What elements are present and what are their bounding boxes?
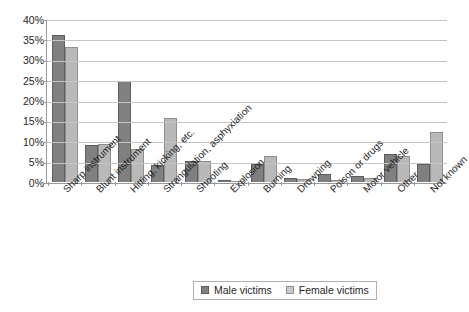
legend-swatch-female-icon [286, 286, 294, 294]
gridline [47, 20, 447, 21]
y-tick-label: 25% [6, 76, 44, 87]
y-tick-label: 40% [6, 15, 44, 26]
y-tick-mark [43, 142, 47, 143]
gridline [47, 40, 447, 41]
y-tick-label: 15% [6, 116, 44, 127]
x-axis: Sharp instrumentBlunt instrumentHitting,… [46, 185, 447, 275]
y-tick-label: 20% [6, 96, 44, 107]
gridline [47, 122, 447, 123]
y-tick-mark [43, 61, 47, 62]
legend-label-male: Male victims [214, 284, 272, 296]
legend-label-female: Female victims [299, 284, 369, 296]
legend-item-male[interactable]: Male victims [201, 284, 272, 296]
y-tick-mark [43, 163, 47, 164]
chart-legend: Male victims Female victims [193, 281, 377, 300]
legend-swatch-male-icon [201, 286, 209, 294]
bar-male [284, 178, 297, 182]
legend-item-female[interactable]: Female victims [286, 284, 369, 296]
y-tick-label: 30% [6, 55, 44, 66]
y-tick-mark [43, 183, 47, 184]
bar-male [218, 180, 231, 182]
y-tick-label: 35% [6, 35, 44, 46]
bar-male [52, 35, 65, 182]
gridline [47, 61, 447, 62]
y-tick-label: 0% [6, 178, 44, 189]
bar-male [417, 164, 430, 182]
y-axis: 0%5%10%15%20%25%30%35%40% [6, 14, 44, 184]
y-tick-mark [43, 20, 47, 21]
y-tick-mark [43, 102, 47, 103]
y-tick-mark [43, 122, 47, 123]
gridline [47, 81, 447, 82]
y-tick-label: 5% [6, 157, 44, 168]
y-tick-mark [43, 81, 47, 82]
y-tick-label: 10% [6, 137, 44, 148]
y-tick-mark [43, 40, 47, 41]
